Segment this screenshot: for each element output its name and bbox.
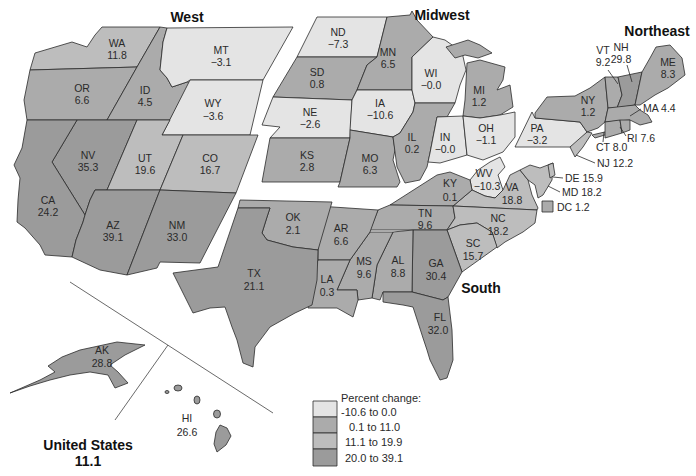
label-MA: MA 4.4	[643, 102, 676, 114]
label-DE-value: 15.9	[583, 172, 604, 184]
label-SC-value: 15.7	[463, 250, 484, 262]
label-MS-value: 9.6	[357, 268, 372, 280]
state-DC-swatch	[542, 201, 553, 212]
label-CO-abbr: CO	[202, 152, 218, 164]
label-OK-value: 2.1	[286, 224, 301, 236]
label-ID-value: 4.5	[138, 96, 153, 108]
label-NH-value: 29.8	[611, 53, 632, 65]
label-WA-abbr: WA	[109, 37, 126, 49]
label-NV-value: 35.3	[78, 161, 99, 173]
label-SD-value: 0.8	[310, 78, 325, 90]
label-CT: CT 8.0	[596, 141, 627, 153]
leader-DE	[553, 177, 563, 178]
label-MT-abbr: MT	[213, 44, 229, 56]
label-TX-value: 21.1	[244, 280, 265, 292]
label-RI: RI 7.6	[627, 132, 655, 144]
label-DC-abbr: DC	[557, 201, 573, 213]
leader-MD	[548, 186, 560, 192]
leader-NJ	[576, 155, 595, 163]
label-NE-value: −2.6	[300, 118, 321, 130]
label-IA-abbr: IA	[375, 97, 385, 109]
label-KS-abbr: KS	[300, 149, 314, 161]
label-OK-abbr: OK	[285, 211, 300, 223]
label-DE: DE 15.9	[565, 172, 603, 184]
label-IA-value: −10.6	[367, 109, 394, 121]
legend-swatch-3	[313, 449, 337, 466]
label-NH-abbr: NH	[613, 41, 628, 53]
label-LA-abbr: LA	[321, 273, 334, 285]
region-title-south: South	[461, 280, 501, 296]
label-WV-abbr: WV	[476, 167, 493, 179]
state-MI-lower	[463, 60, 513, 118]
label-ND-abbr: ND	[330, 26, 346, 38]
label-ME-value: 8.3	[661, 68, 676, 80]
state-FL	[383, 292, 453, 380]
label-MA-abbr: MA	[643, 102, 659, 114]
label-AL-value: 8.8	[391, 267, 406, 279]
label-NJ-abbr: NJ	[597, 157, 610, 169]
label-MA-value: 4.4	[661, 102, 676, 114]
label-MD: MD 18.2	[562, 186, 602, 198]
state-CT	[605, 120, 622, 138]
state-HI-island	[165, 391, 169, 394]
region-title-west: West	[170, 9, 204, 25]
state-HI-island	[174, 385, 182, 391]
label-CA-value: 24.2	[38, 206, 59, 218]
label-DC: DC 1.2	[557, 201, 590, 213]
label-UT-value: 19.6	[135, 164, 156, 176]
label-FL-value: 32.0	[428, 324, 449, 336]
label-DC-value: 1.2	[575, 201, 590, 213]
label-NC-value: 18.2	[488, 225, 509, 237]
label-NJ-value: 12.2	[613, 157, 634, 169]
label-KY-abbr: KY	[443, 177, 457, 189]
label-CO-value: 16.7	[200, 164, 221, 176]
label-NY-value: 1.2	[581, 106, 596, 118]
state-HI-island	[214, 410, 221, 418]
label-TX-abbr: TX	[247, 267, 260, 279]
label-VT-value: 9.2	[596, 56, 611, 68]
national-value: 11.1	[75, 453, 102, 469]
label-CA-abbr: CA	[41, 194, 56, 206]
label-VA-value: 18.8	[502, 194, 523, 206]
label-VA-abbr: VA	[505, 181, 518, 193]
label-KY-value: 0.1	[443, 191, 458, 203]
label-CT-value: 8.0	[613, 141, 628, 153]
label-MD-value: 18.2	[581, 186, 602, 198]
label-WY-abbr: WY	[205, 97, 222, 109]
label-AK-value: 28.8	[92, 357, 113, 369]
label-NM-value: 33.0	[167, 231, 188, 243]
label-PA-abbr: PA	[530, 122, 543, 134]
inset-hawaii	[165, 385, 231, 452]
legend-swatch-1	[313, 417, 337, 433]
label-MD-abbr: MD	[562, 186, 579, 198]
legend-label-1: 0.1 to 11.0	[349, 421, 400, 433]
label-OR-abbr: OR	[74, 82, 90, 94]
label-KS-value: 2.8	[300, 161, 315, 173]
label-WI-value: −0.0	[421, 79, 442, 91]
label-UT-abbr: UT	[138, 152, 153, 164]
label-AR-abbr: AR	[334, 222, 349, 234]
state-AK	[10, 342, 145, 393]
state-MI-upper	[446, 40, 492, 58]
label-AZ-value: 39.1	[103, 231, 124, 243]
legend-title: Percent change:	[341, 392, 421, 404]
national-label: United States	[43, 437, 133, 453]
label-MO-abbr: MO	[362, 152, 379, 164]
label-MI-value: 1.2	[472, 96, 487, 108]
label-AZ-abbr: AZ	[106, 219, 120, 231]
label-WV-value: −10.3	[474, 180, 501, 192]
label-SC-abbr: SC	[466, 237, 481, 249]
label-MO-value: 6.3	[363, 164, 378, 176]
label-MN-abbr: MN	[380, 46, 396, 58]
label-DE-abbr: DE	[565, 172, 580, 184]
label-MN-value: 6.5	[381, 58, 396, 70]
label-AL-abbr: AL	[392, 254, 405, 266]
label-WY-value: −3.6	[203, 110, 224, 122]
label-ND-value: −7.3	[328, 38, 349, 50]
label-HI-value: 26.6	[177, 426, 198, 438]
state-HI-big-island	[214, 425, 231, 452]
label-MS-abbr: MS	[356, 255, 372, 267]
legend-label-0: -10.6 to 0.0	[341, 406, 397, 418]
label-FL-abbr: FL	[434, 311, 446, 323]
population-change-map: West Midwest Northeast South WA 11.8 OR …	[0, 0, 696, 476]
